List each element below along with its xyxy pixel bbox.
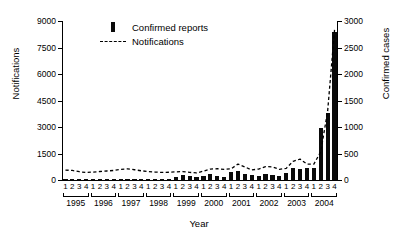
- y-axis-right-tick: [338, 48, 342, 49]
- x-axis-year-group: 12342001: [228, 181, 256, 221]
- y-axis-left-tick-label: 7500: [37, 44, 56, 53]
- x-axis-quarter-row: 1234: [90, 181, 118, 192]
- x-axis-year-label: 2003: [283, 198, 311, 209]
- y-axis-left-tick-label: 9000: [37, 17, 56, 26]
- x-axis-year-group: 12342004: [310, 181, 338, 221]
- y-axis-right-title: Confirmed cases: [380, 9, 391, 119]
- x-axis-quarter-row: 1234: [117, 181, 145, 192]
- x-axis-year-group: 12341995: [62, 181, 90, 221]
- y-axis-left-tick-label: 6000: [37, 70, 56, 79]
- x-axis-quarter-row: 1234: [145, 181, 173, 192]
- y-axis-right-tick-label: 1500: [344, 97, 363, 106]
- x-axis-year-bracket: [201, 193, 227, 197]
- x-axis-year-bracket: [63, 193, 89, 197]
- x-axis-year-bracket: [229, 193, 255, 197]
- x-axis-quarter-row: 1234: [310, 181, 338, 192]
- y-axis-right-tick-label: 0: [344, 176, 349, 185]
- x-axis-year-group: 12341996: [90, 181, 118, 221]
- x-axis-year-label: 1995: [62, 198, 90, 209]
- x-axis-quarter-row: 1234: [172, 181, 200, 192]
- y-axis-right-tick: [338, 127, 342, 128]
- x-axis-year-bracket: [118, 193, 144, 197]
- x-axis-quarter-row: 1234: [255, 181, 283, 192]
- x-axis-year-label: 1996: [90, 198, 118, 209]
- plot-area: [62, 21, 338, 180]
- y-axis-right-tick: [338, 74, 342, 75]
- x-axis-quarter-row: 1234: [62, 181, 90, 192]
- y-axis-right-tick: [338, 154, 342, 155]
- y-axis-right-tick: [338, 101, 342, 102]
- x-axis-year-label: 1998: [145, 198, 173, 209]
- y-axis-right-tick: [338, 180, 342, 181]
- y-axis-left-tick-label: 3000: [37, 123, 56, 132]
- x-axis-year-bracket: [173, 193, 199, 197]
- x-axis-year-label: 2004: [310, 198, 338, 209]
- x-axis-year-bracket: [146, 193, 172, 197]
- line-series-notifications: [62, 21, 338, 180]
- x-axis-year-bracket: [256, 193, 282, 197]
- x-axis-year-label: 2000: [200, 198, 228, 209]
- x-axis-year-group: 12342002: [255, 181, 283, 221]
- x-axis-year-group: 12341999: [172, 181, 200, 221]
- y-axis-left-tick-label: 4500: [37, 97, 56, 106]
- y-axis-right-tick-label: 3000: [344, 17, 363, 26]
- x-axis-year-bracket: [91, 193, 117, 197]
- x-axis-year-bracket: [284, 193, 310, 197]
- y-axis-right-tick-label: 1000: [344, 123, 363, 132]
- y-axis-right-tick: [338, 21, 342, 22]
- y-axis-left-tick-label: 1500: [37, 150, 56, 159]
- x-axis-year-group: 12342000: [200, 181, 228, 221]
- x-axis-quarter-row: 1234: [228, 181, 256, 192]
- y-axis-right-tick-label: 500: [344, 150, 358, 159]
- x-axis-quarter-row: 1234: [200, 181, 228, 192]
- y-axis-right-tick-label: 2000: [344, 70, 363, 79]
- y-axis-right-tick-label: 2500: [344, 44, 363, 53]
- y-axis-left-title: Notifications: [10, 31, 21, 117]
- x-axis-year-label: 2001: [228, 198, 256, 209]
- x-axis-year-group: 12341997: [117, 181, 145, 221]
- x-axis-labels: 1234199512341996123419971234199812341999…: [62, 181, 338, 221]
- x-axis-year-bracket: [311, 193, 337, 197]
- x-axis-year-label: 1997: [117, 198, 145, 209]
- x-axis-year-label: 2002: [255, 198, 283, 209]
- x-axis-year-group: 12341998: [145, 181, 173, 221]
- y-axis-left-tick-label: 0: [51, 176, 56, 185]
- x-axis-year-group: 12342003: [283, 181, 311, 221]
- chart-figure: Confirmed reports Notifications Notifica…: [0, 0, 398, 240]
- x-axis-quarter-label: 4: [331, 181, 338, 192]
- x-axis-year-label: 1999: [172, 198, 200, 209]
- x-axis-quarter-row: 1234: [283, 181, 311, 192]
